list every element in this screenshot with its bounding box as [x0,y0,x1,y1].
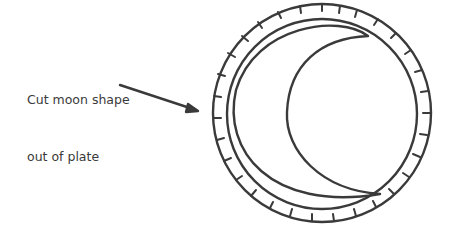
plate-rim-ticks [214,4,430,221]
plate-illustration [0,0,453,227]
moon-crescent-outline [234,26,380,197]
plate-outer-edge [213,4,431,222]
pointer-arrow-icon [120,85,198,112]
